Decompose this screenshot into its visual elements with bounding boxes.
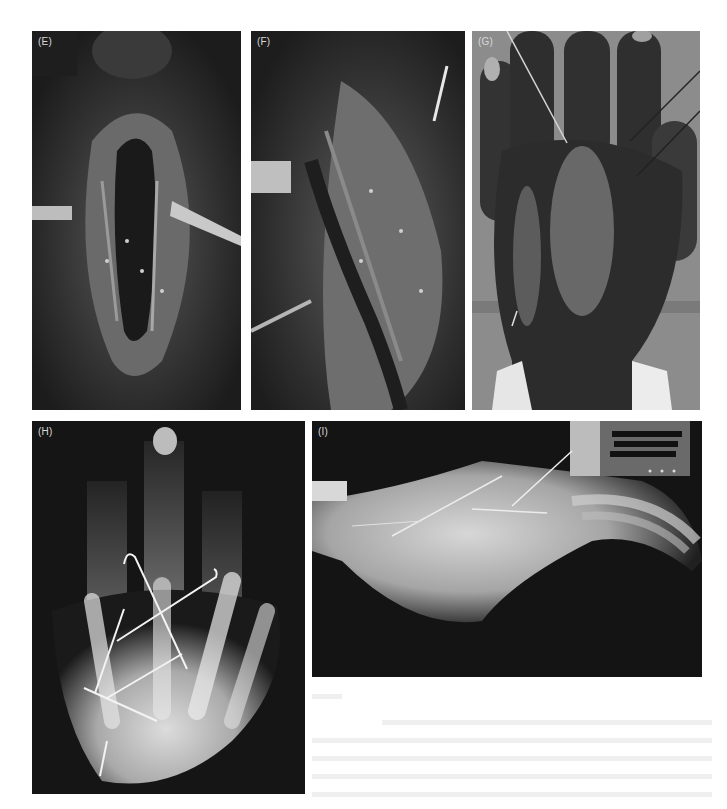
wound-photo-e: [32, 31, 241, 410]
panel-label-f: (F): [257, 36, 270, 47]
panel-i-xray: (I): [312, 421, 702, 677]
panel-label-g: (G): [478, 36, 493, 47]
panel-e-photo: (E): [32, 31, 241, 410]
xray-pa-hand: [32, 421, 305, 794]
panel-label-i: (I): [318, 426, 328, 437]
panel-f-photo: (F): [251, 31, 465, 410]
xray-lateral-hand: [312, 421, 702, 677]
panel-h-xray: (H): [32, 421, 305, 794]
panel-label-e: (E): [38, 36, 52, 47]
bleed-through-text: [312, 690, 722, 805]
hand-photo-g: [472, 31, 700, 410]
wound-photo-f: [251, 31, 465, 410]
panel-label-h: (H): [38, 426, 52, 437]
panel-g-photo: (G): [472, 31, 700, 410]
